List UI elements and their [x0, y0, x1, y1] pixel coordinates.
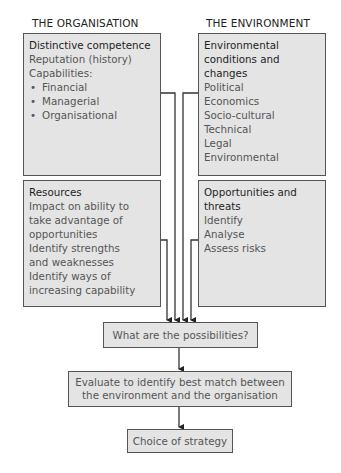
choice-of-strategy-box: Choice of strategy: [127, 429, 233, 453]
possibilities-text: What are the possibilities?: [104, 329, 257, 342]
possibilities-box: What are the possibilities?: [103, 322, 258, 348]
evaluate-box: Evaluate to identify best match between …: [68, 371, 292, 407]
evaluate-text-line: Evaluate to identify best match between: [69, 376, 291, 389]
choice-of-strategy-text: Choice of strategy: [128, 435, 232, 448]
evaluate-text-line: the environment and the organisation: [69, 389, 291, 402]
